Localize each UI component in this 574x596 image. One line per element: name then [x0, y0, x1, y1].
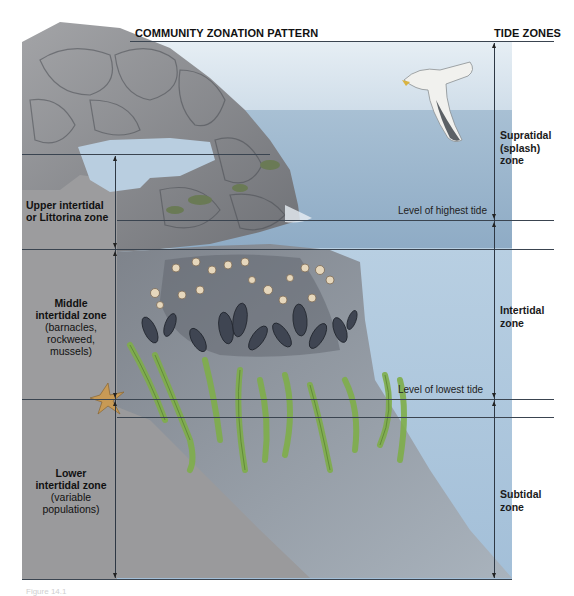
middle-intertidal-detail3: mussels) [28, 345, 114, 357]
upper-intertidal-top-line [22, 154, 270, 155]
tide-zones-title: TIDE ZONES [494, 27, 561, 39]
lower-intertidal-top-line [117, 417, 554, 418]
top-rule [130, 41, 554, 42]
middle-intertidal-label: Middle intertidal zone (barnacles, rockw… [28, 297, 114, 357]
arrow-down-icon [113, 393, 117, 398]
middle-intertidal-name: Middle [28, 297, 114, 309]
arrow-down-icon [113, 243, 117, 248]
arrow-up-icon [492, 43, 496, 48]
arrow-down-icon [492, 393, 496, 398]
figure-caption: Figure 14.1 [26, 587, 66, 596]
lowest-tide-label: Level of lowest tide [398, 384, 483, 395]
subtidal-line1: Subtidal [500, 488, 541, 501]
arrow-up-icon [113, 401, 117, 406]
supratidal-line1: Supratidal [500, 129, 551, 142]
intertidal-zone-label: Intertidal zone [500, 304, 544, 329]
supratidal-zone-label: Supratidal (splash) zone [500, 129, 551, 167]
lower-intertidal-name2: intertidal zone [28, 479, 114, 491]
upper-intertidal-name2: or Littorina zone [26, 211, 116, 223]
middle-intertidal-detail2: rockweed, [28, 333, 114, 345]
lowest-tide-line [22, 399, 554, 400]
diagram-title: COMMUNITY ZONATION PATTERN [135, 27, 318, 39]
arrow-up-icon [113, 156, 117, 161]
highest-tide-label: Level of highest tide [398, 205, 487, 216]
supratidal-line2: (splash) [500, 142, 551, 155]
upper-intertidal-name: Upper intertidal [26, 199, 116, 211]
arrow-up-icon [492, 222, 496, 227]
supratidal-line3: zone [500, 154, 551, 167]
intertidal-line1: Intertidal [500, 304, 544, 317]
arrow-down-icon [113, 573, 117, 578]
bottom-line [22, 579, 512, 580]
intertidal-line2: zone [500, 317, 544, 330]
lower-intertidal-detail2: populations) [28, 503, 114, 515]
right-zone-axis [494, 43, 495, 578]
lower-intertidal-name: Lower [28, 467, 114, 479]
arrow-down-icon [492, 573, 496, 578]
arrow-up-icon [492, 401, 496, 406]
arrow-down-icon [492, 214, 496, 219]
upper-intertidal-label: Upper intertidal or Littorina zone [26, 199, 116, 223]
middle-intertidal-name2: intertidal zone [28, 309, 114, 321]
middle-intertidal-detail: (barnacles, [28, 321, 114, 333]
subtidal-zone-label: Subtidal zone [500, 488, 541, 513]
arrow-up-icon [113, 251, 117, 256]
upper-middle-boundary-line [22, 249, 554, 250]
highest-tide-line [117, 220, 554, 221]
lower-intertidal-label: Lower intertidal zone (variable populati… [28, 467, 114, 515]
lower-intertidal-detail: (variable [28, 491, 114, 503]
subtidal-line2: zone [500, 501, 541, 514]
